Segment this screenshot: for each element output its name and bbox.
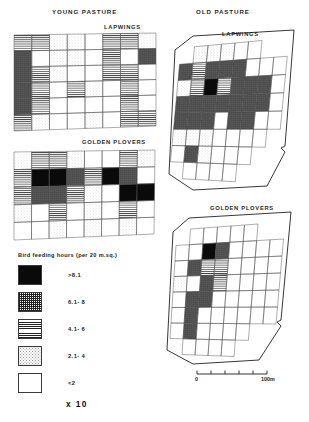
map-cell [187,260,201,276]
map-cell [85,49,103,65]
map-cell [189,228,204,245]
legend-item-c4: 6.1- 8 [18,291,168,312]
map-young-pasture-lapwings [12,31,158,133]
map-cell [242,241,257,258]
map-cell [138,111,156,127]
map-cell [233,42,248,61]
legend-item-c5: >8.1 [18,264,168,285]
map-cell [121,64,139,80]
map-cell [202,243,217,260]
map-cell [84,185,102,203]
map-cell [137,184,155,201]
map-cell [174,113,189,130]
map-cell [224,307,238,323]
map-cell [182,339,196,355]
map-cell [220,43,235,61]
map-cell [174,260,188,276]
map-cell [238,291,253,308]
map-cell [185,129,200,146]
legend-label-c2: 2.1- 4 [68,353,85,359]
map-cell [239,129,254,147]
map-cell [67,168,85,186]
map-cell [102,168,120,185]
map-cell [227,112,242,130]
map-cell [191,62,206,80]
map-cell [121,49,139,65]
map-cell [49,186,67,204]
map-cell [84,151,102,168]
map-cell [267,111,282,129]
map-cell [14,83,32,99]
map-cell [103,112,121,128]
map-cell [102,185,120,203]
map-cell [209,163,224,181]
legend-swatch-solid-black [18,265,42,285]
map-cell [67,81,85,97]
map-cell [67,220,85,238]
map-cell [50,82,68,98]
map-cell [138,64,156,80]
map-cell [85,97,103,113]
map-cell [193,46,208,64]
map-cell [190,79,205,96]
map-cell [254,111,269,129]
legend-label-c4: 6.1- 8 [68,299,85,305]
map-cell [182,162,197,179]
map-cell [225,129,240,147]
map-cell [188,244,203,261]
map-cell [14,114,32,131]
map-cell [195,339,209,355]
map-cell [202,95,217,112]
map-cell [175,96,190,113]
map-cell [171,307,185,323]
map-cell [103,49,121,65]
map-cell [14,152,32,170]
map-cell [32,66,50,82]
map-cell [212,291,226,307]
map-cell [32,169,50,187]
map-cell [32,82,50,98]
map-young-pasture-golden-plovers [12,148,158,242]
map-cell [235,324,249,341]
map-cell [121,33,139,49]
map-cell [247,41,262,60]
map-cell [257,75,272,94]
map-cell [243,224,258,241]
map-cell [244,76,259,94]
map-cell [119,184,137,201]
map-cell [103,34,121,50]
map-cell [85,112,103,128]
map-cell [175,245,189,261]
map-cell [84,168,102,186]
map-cell [224,147,239,165]
map-cell [201,259,216,276]
map-cell [137,217,155,235]
map-cell [187,113,202,130]
map-cell [241,257,256,274]
map-cell [121,80,139,96]
map-cell [255,240,270,257]
map-cell [213,275,228,292]
figure-canvas: YOUNG PASTURE OLD PASTURE LAPWINGS GOLDE… [0,0,309,422]
map-cell [102,151,120,168]
map-cell [269,239,284,257]
map-cell [186,276,200,292]
map-cell [250,307,265,324]
map-cell [120,150,138,167]
map-cell [32,35,50,51]
map-cell [188,96,203,113]
map-cell [206,44,221,62]
map-cell [229,241,244,258]
map-cell [50,50,68,66]
map-cell [199,129,214,146]
map-cell [32,221,50,239]
map-cell [85,65,103,81]
scale-label-end: 100m [261,376,275,382]
map-cell [121,111,139,127]
map-cell [170,323,184,339]
map-cell [49,203,67,221]
map-cell [272,56,287,75]
map-cell [267,256,282,273]
map-cell [172,129,187,146]
map-cell [137,150,155,167]
